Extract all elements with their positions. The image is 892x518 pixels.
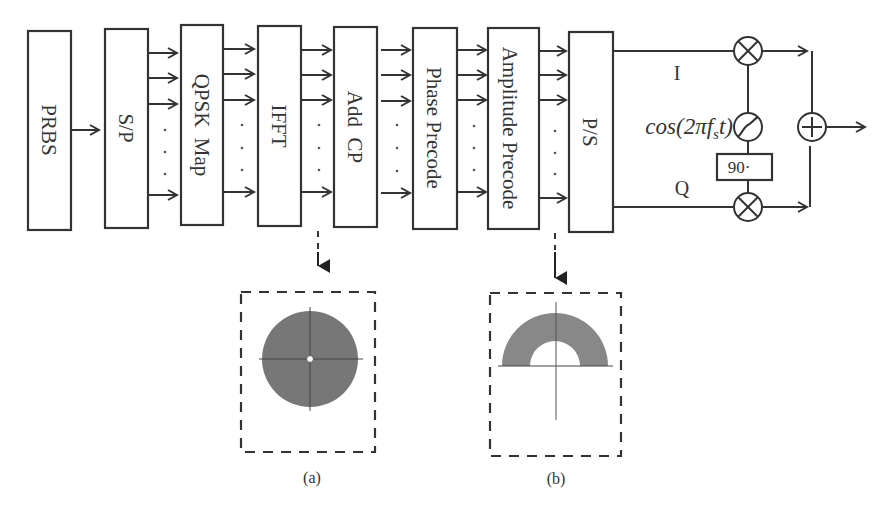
transmitter-diagram: PRBS S/P QPSK Map IFFT Add: [0, 0, 892, 518]
label-i: I: [674, 62, 681, 84]
arrows-phase-amp: [457, 50, 486, 192]
block-prbs: PRBS: [28, 31, 71, 230]
block-add-cp: Add CP: [334, 27, 377, 227]
block-addcp-label: Add CP: [343, 91, 367, 163]
arrows-qpsk-ifft: [223, 49, 254, 192]
arrows-ifft-addcp: [301, 50, 331, 192]
block-amplitude-precode: Amplitude Precode: [488, 28, 539, 229]
block-phase-precode: Phase Precode: [413, 28, 457, 229]
arrows-amp-ps: [539, 51, 566, 198]
block-sp-label: S/P: [114, 113, 138, 142]
phase-shift-90: 90·: [717, 154, 772, 180]
arrows-sp-qpsk: [148, 53, 177, 195]
label-q: Q: [675, 177, 690, 199]
inset-a: (a): [241, 292, 375, 487]
summer-icon: [798, 113, 826, 141]
block-ps-label: P/S: [578, 117, 602, 146]
mixer-i: [734, 37, 762, 65]
block-qpsk-map: QPSK Map: [181, 25, 223, 225]
block-prbs-label: PRBS: [37, 104, 61, 155]
block-amp-label: Amplitude Precode: [498, 47, 522, 210]
phase-shift-label: 90·: [728, 158, 751, 177]
block-phase-label: Phase Precode: [422, 67, 446, 189]
arrows-addcp-phase: [381, 50, 410, 193]
block-ifft: IFFT: [258, 26, 301, 226]
block-qpsk-label: QPSK Map: [190, 74, 214, 177]
oscillator-icon: [734, 113, 762, 141]
block-ps: P/S: [569, 32, 613, 232]
caption-b: (b): [547, 470, 566, 488]
caption-a: (a): [303, 469, 321, 487]
mixer-q: [734, 193, 762, 221]
block-sp: S/P: [105, 29, 148, 228]
block-ifft-label: IFFT: [267, 104, 291, 147]
constellation-half-annulus: [502, 313, 608, 366]
oscillator-label: cos(2πfst): [645, 114, 733, 142]
inset-b: (b): [490, 293, 621, 488]
